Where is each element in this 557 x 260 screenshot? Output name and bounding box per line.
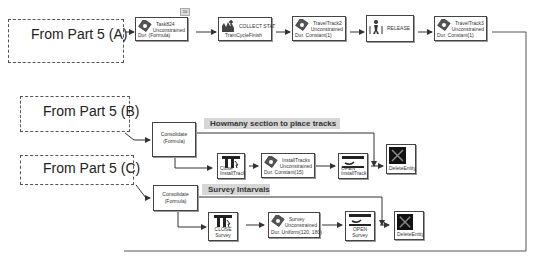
install-tracks-block[interactable]: InstallTracks Unconstrained Dur. Constan… [261, 153, 315, 178]
release-icon [369, 19, 383, 35]
travel-track3-block[interactable]: TravelTrack3 Unconstrained Dur. Constant… [434, 16, 487, 41]
gate-open-icon [349, 214, 371, 226]
task-icon [295, 19, 309, 31]
delete-x-icon [389, 147, 406, 164]
survey-intervals-label: Survey Intarvals [202, 184, 270, 195]
consolidate-block-b[interactable]: Consolidate (Formula) [152, 122, 196, 157]
release-block[interactable]: RELEASE [366, 15, 414, 42]
delete-entity-block-c[interactable]: DeleteEntity [394, 211, 424, 240]
open-survey-block[interactable]: OPEN Survey [345, 211, 375, 241]
task-icon [138, 20, 152, 32]
collect-stat-block[interactable]: COLLECT STAT TrainCycleFinish [218, 17, 272, 41]
howmany-sections-label: Howmany section to place tracks [204, 118, 340, 129]
delete-x-icon [397, 214, 413, 230]
source-label: From Part 5 (B) [43, 103, 139, 119]
block-count-badge: 10 [180, 8, 190, 16]
source-label: From Part 5 (C) [43, 160, 140, 176]
delete-entity-block-b[interactable]: DeleteEntity [386, 144, 416, 174]
travel-track2-block[interactable]: TravelTrack2 Unconstrained Dur. Constant… [292, 16, 346, 41]
source-part5-a: From Part 5 (A) [8, 19, 124, 63]
task-icon [264, 156, 278, 168]
close-installtrack-block[interactable]: Close InstallTrack [217, 153, 245, 179]
statistics-icon [221, 20, 235, 32]
survey-block[interactable]: Survey Unconstrained Dur. Uniform(120, 1… [268, 212, 320, 238]
close-survey-block[interactable]: CLOSE Survey [208, 212, 238, 241]
consolidate-block-c[interactable]: Consolidate (Formula) [153, 185, 198, 211]
source-part5-b: From Part 5 (B) [20, 96, 130, 132]
source-label: From Part 5 (A) [31, 26, 127, 42]
task824-block[interactable]: Task824 Unconstrained Dur. (Formula) [135, 17, 188, 41]
open-installtrack-block[interactable]: OPEN InstallTrack [338, 153, 368, 179]
task-icon [271, 215, 285, 227]
source-part5-c: From Part 5 (C) [20, 155, 134, 185]
task-icon [437, 19, 451, 31]
